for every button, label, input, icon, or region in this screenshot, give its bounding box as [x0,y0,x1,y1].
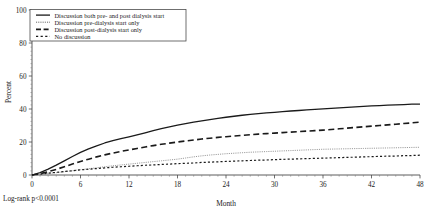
legend-label-3: No discussion [55,33,92,40]
y-tick-label: 0 [23,172,27,180]
y-axis-title: Percent [4,80,13,103]
x-tick-label: 36 [319,181,327,189]
x-tick-label: 30 [271,181,279,189]
x-tick-label: 0 [30,181,34,189]
x-axis: 0612182430364248 [30,175,424,189]
series-layer [32,104,420,175]
y-tick-label: 40 [19,106,27,114]
y-tick-label: 20 [19,139,27,147]
y-axis: 020406080100 [16,7,32,180]
cumulative-incidence-chart: 020406080100 0612182430364248 Discussion… [0,0,429,213]
x-tick-label: 24 [222,181,230,189]
legend-label-0: Discussion both pre- and post dialysis s… [55,12,165,19]
chart-legend: Discussion both pre- and post dialysis s… [30,10,186,42]
x-axis-title: Month [216,199,236,208]
x-tick-label: 18 [174,181,182,189]
series-line-0 [32,104,420,175]
chart-annotations: Log-rank p<0.0001 [3,195,59,203]
x-tick-label: 6 [79,181,83,189]
y-tick-label: 100 [16,7,27,15]
y-tick-label: 60 [19,73,27,81]
log-rank-annotation: Log-rank p<0.0001 [3,195,59,203]
legend-label-2: Discussion post-dialysis start only [55,26,143,33]
chart-canvas: 020406080100 0612182430364248 Discussion… [0,0,429,213]
x-tick-label: 42 [368,181,376,189]
legend-label-1: Discussion pre-dialysis start only [55,19,141,26]
x-tick-label: 12 [125,181,133,189]
x-tick-label: 48 [416,181,424,189]
y-tick-label: 80 [19,40,27,48]
